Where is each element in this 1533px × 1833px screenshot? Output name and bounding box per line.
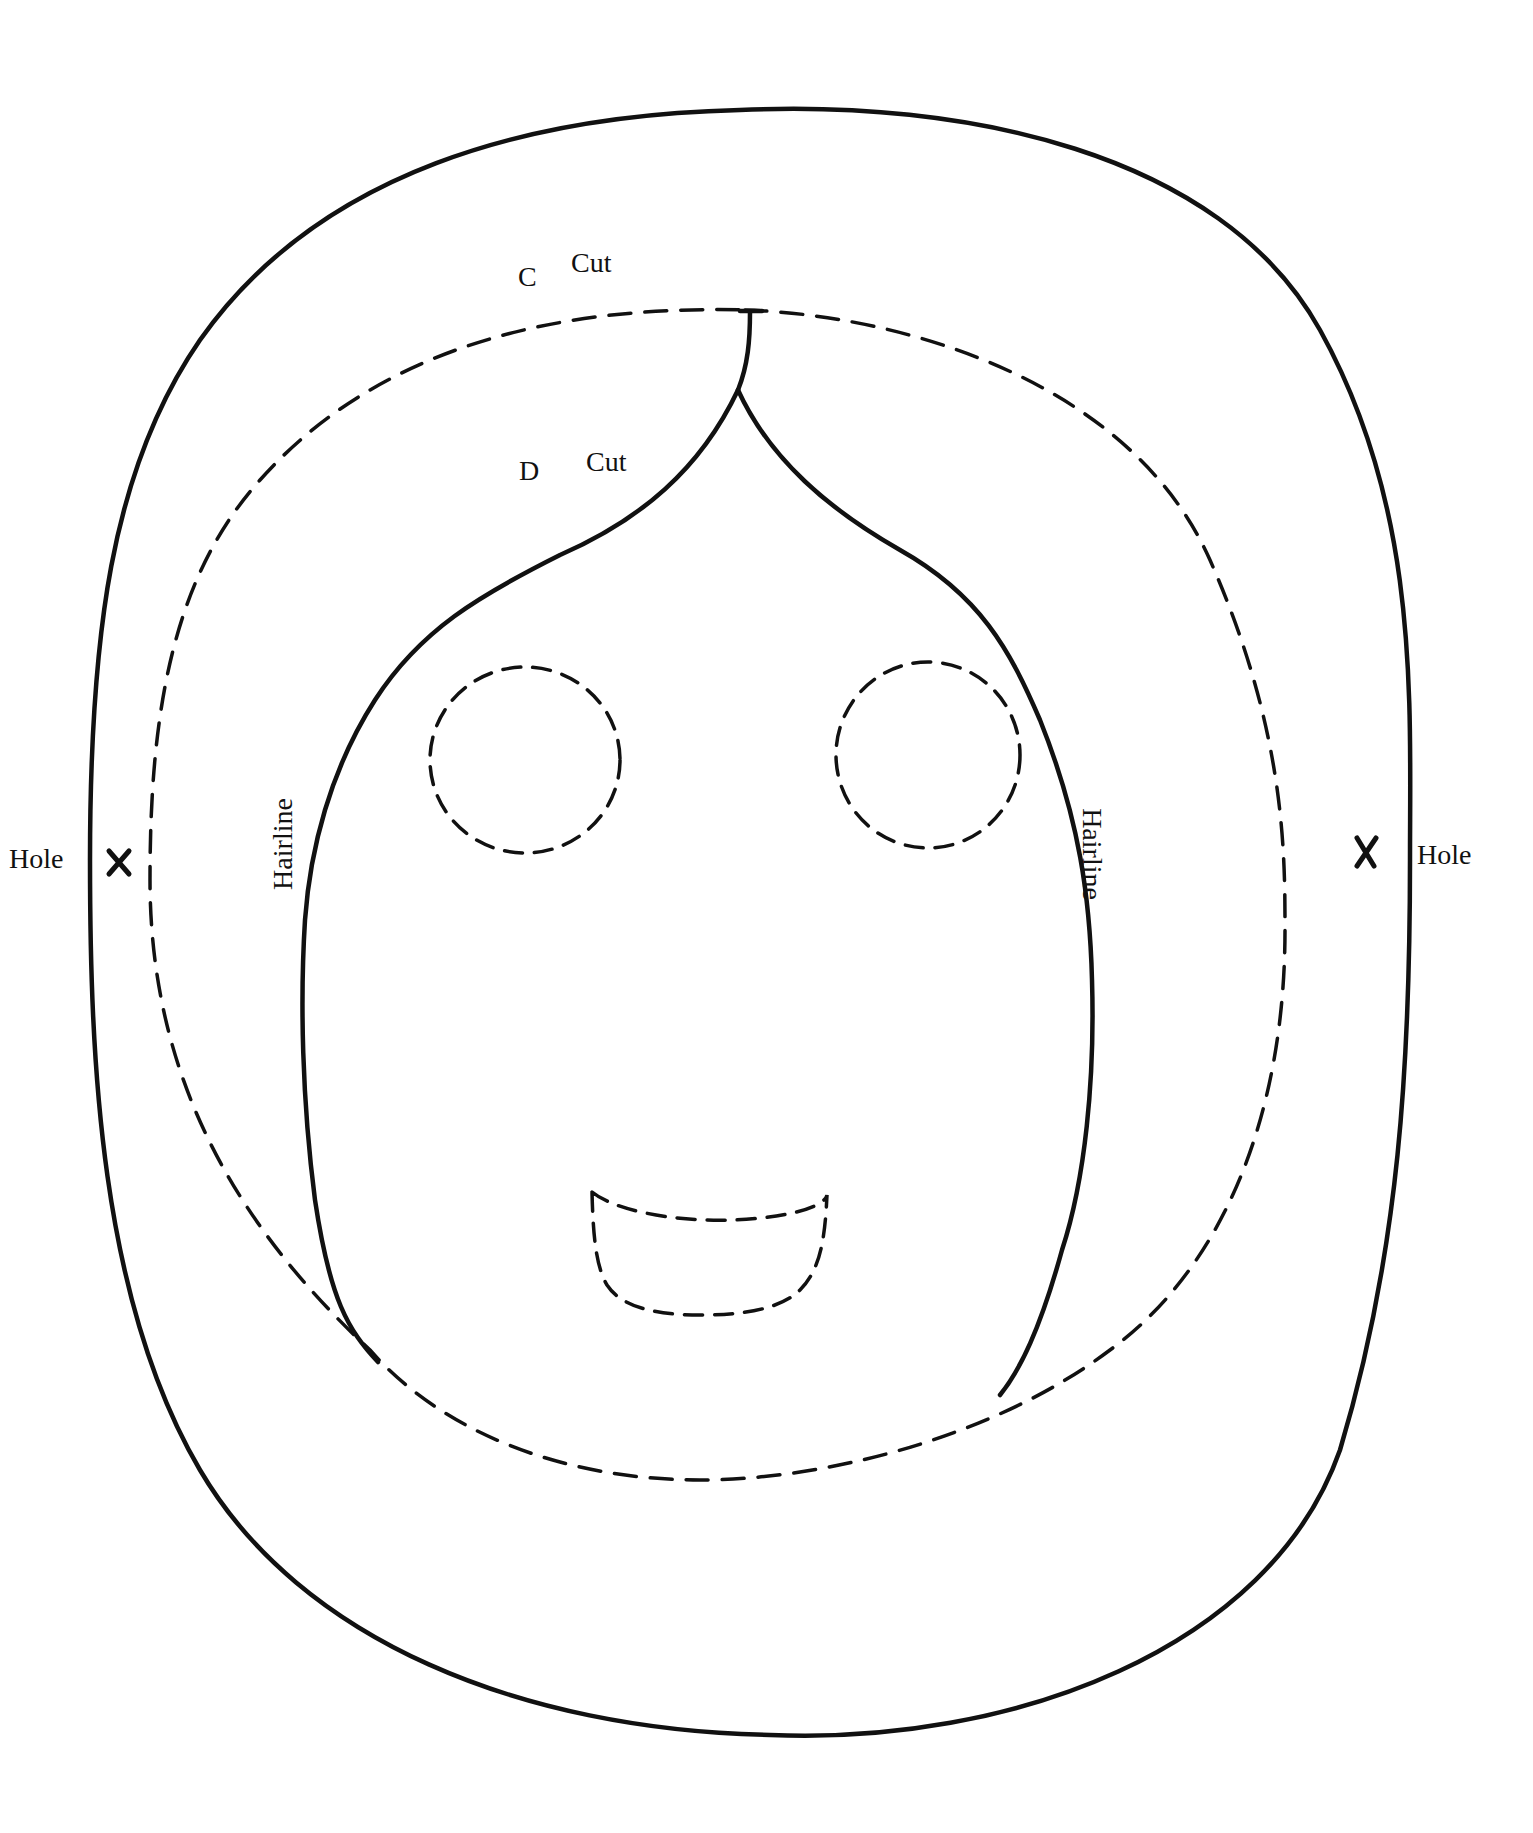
label-d-letter: D [519,457,539,485]
right-eye-outline [836,662,1020,848]
mouth-outline [592,1192,827,1315]
left-eye-outline [430,667,620,853]
label-d-cut: Cut [586,448,626,476]
outer-cut-outline [90,109,1410,1736]
mask-pattern-drawing [0,0,1533,1833]
hole-mark-right [1357,838,1376,866]
label-c-letter: C [518,263,537,291]
label-hole-right: Hole [1417,841,1471,869]
label-c-cut: Cut [571,249,611,277]
hole-mark-left [109,851,129,874]
face-hairline-outline-right [738,390,1093,1395]
face-hairline-outline [302,390,738,1362]
label-hole-left: Hole [9,845,63,873]
cropped-title [560,0,980,8]
inner-dashed-outline [150,310,1285,1480]
hair-part-line [738,312,750,390]
label-hairline-left: Hairline [269,798,297,890]
label-hairline-right: Hairline [1078,808,1106,900]
